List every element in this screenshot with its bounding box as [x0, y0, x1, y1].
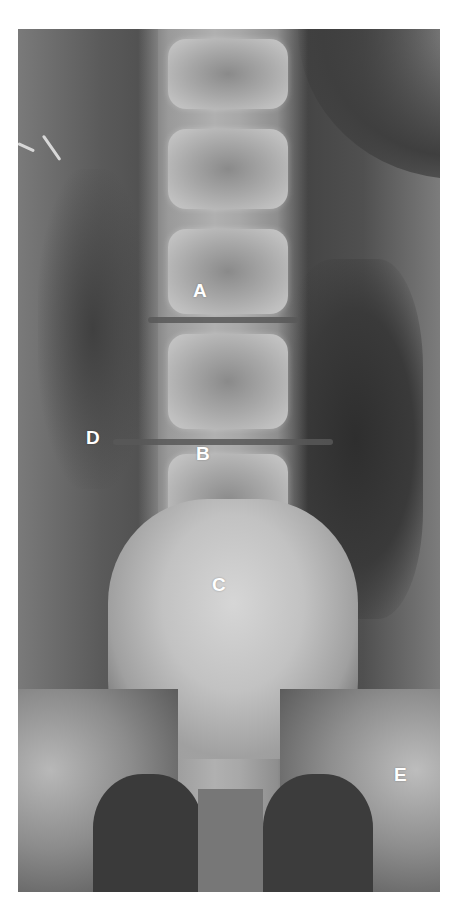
vertebra	[168, 39, 288, 109]
intervertebral-disc	[113, 439, 333, 445]
xray-image	[18, 29, 440, 892]
label-d: D	[86, 428, 100, 447]
vertebra	[168, 229, 288, 314]
vertebra	[168, 334, 288, 429]
label-e: E	[394, 765, 407, 784]
label-c: C	[212, 575, 226, 594]
coccyx-region	[198, 789, 263, 892]
label-b: B	[196, 444, 210, 463]
label-a: A	[193, 281, 207, 300]
pelvic-shadow-left	[93, 774, 203, 892]
vertebra	[168, 129, 288, 209]
intervertebral-disc	[148, 317, 298, 323]
pelvic-shadow-right	[263, 774, 373, 892]
